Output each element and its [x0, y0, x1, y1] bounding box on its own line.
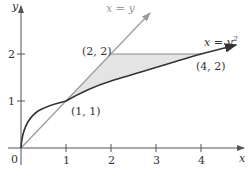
- y-tick-label-2: 2: [8, 48, 15, 61]
- x-tick-label-2: 2: [108, 154, 115, 167]
- point-label-2-2: (2, 2): [82, 45, 112, 58]
- point-label-4-2: (4, 2): [196, 60, 226, 73]
- x-tick-label-1: 1: [63, 154, 70, 167]
- shaded-region: [66, 54, 201, 101]
- line-x-equals-y: [21, 13, 150, 148]
- parabola-label-base: x = y: [204, 36, 233, 49]
- x-tick-label-3: 3: [153, 154, 160, 167]
- point-label-1-1: (1, 1): [71, 105, 101, 118]
- y-axis-label: y: [11, 0, 19, 13]
- parabola-label-exponent: 2: [232, 34, 238, 43]
- x-tick-label-4: 4: [198, 154, 205, 167]
- y-tick-label-1: 1: [8, 95, 15, 108]
- line-label: x = y: [106, 2, 135, 15]
- parabola-label: x = y2: [204, 34, 238, 49]
- origin-label: 0: [11, 153, 18, 166]
- x-axis-label: x: [239, 152, 246, 165]
- diagram-canvas: y x 0 1 2 3 4 1 2 x = y x = y2 (1, 1) (2…: [0, 0, 251, 180]
